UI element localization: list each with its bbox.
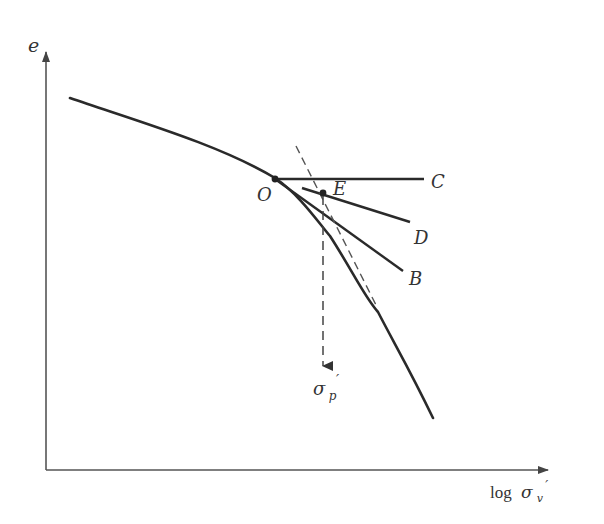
e-log-sigma-diagram: e log σ v ′ O E C D B σ p ′ <box>0 0 604 524</box>
y-axis-label: e <box>28 34 39 56</box>
point-e <box>320 190 327 197</box>
label-c: C <box>431 171 445 192</box>
label-sigma-p: σ p ′ <box>313 372 341 404</box>
virgin-line-extension <box>296 146 376 305</box>
label-d: D <box>413 227 429 248</box>
label-b: B <box>408 268 422 289</box>
label-o: O <box>257 184 272 205</box>
point-o <box>272 176 279 183</box>
compression-curve <box>70 98 433 418</box>
label-e: E <box>332 178 346 199</box>
bisector-line-d <box>302 188 410 222</box>
x-axis-label: log σ v ′ <box>490 478 548 506</box>
